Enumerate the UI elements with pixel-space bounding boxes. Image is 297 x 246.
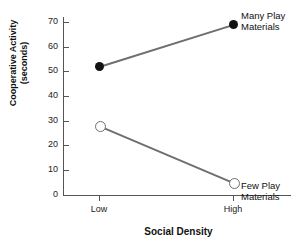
y-tick-mark [63,71,69,72]
series-label-1: Few PlayMaterials [241,180,280,202]
series-label-line1: Few Play [241,180,280,191]
y-tick-mark [63,22,69,23]
data-point [95,121,106,132]
x-tick-mark [99,195,100,201]
y-tick-label-40: 40 [28,90,58,100]
x-tick-label-high: High [203,204,263,214]
data-point [95,62,104,71]
y-tick-label-70: 70 [28,16,58,26]
series-label-line1: Many Play [241,10,285,21]
y-axis-label: Cooperative Activity (seconds) [8,0,30,133]
y-tick-label-0: 0 [28,189,58,199]
y-tick-mark [63,145,69,146]
line-chart: Cooperative Activity (seconds) 010203040… [0,0,297,246]
y-tick-label-10: 10 [28,164,58,174]
data-point [229,178,240,189]
series-label-line2: Materials [241,191,280,202]
series-label-0: Many PlayMaterials [241,10,285,32]
y-tick-mark [63,47,69,48]
y-tick-label-60: 60 [28,41,58,51]
series-line-1 [98,125,233,184]
y-tick-mark [63,96,69,97]
x-axis-label: Social Density [60,226,297,237]
x-tick-label-low: Low [69,204,129,214]
y-tick-mark [63,170,69,171]
x-tick-mark [233,195,234,201]
y-tick-label-50: 50 [28,65,58,75]
y-tick-mark [63,121,69,122]
y-tick-label-30: 30 [28,115,58,125]
series-line-0 [99,24,234,68]
data-point [229,20,238,29]
y-tick-label-20: 20 [28,139,58,149]
series-label-line2: Materials [241,21,285,32]
y-axis-label-line1: Cooperative Activity [8,0,19,133]
y-tick-mark [63,195,69,196]
